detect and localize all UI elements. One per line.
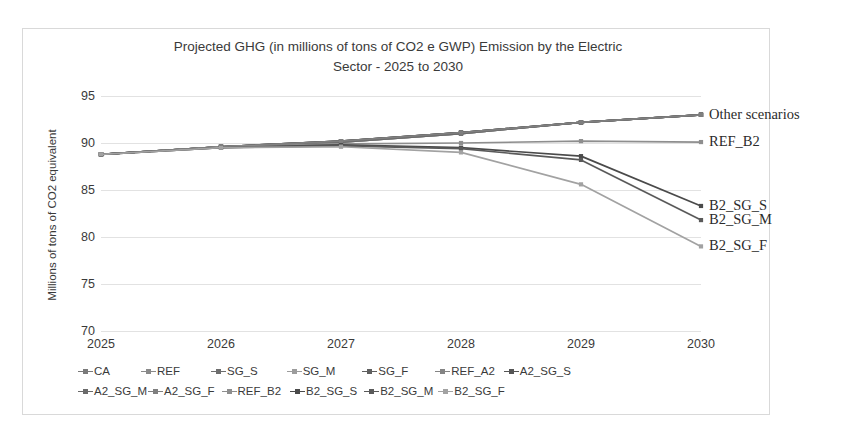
chart-title-line-1: Projected GHG (in millions of tons of CO…: [63, 37, 733, 57]
y-tick-label: 70: [57, 324, 95, 338]
x-tick-label: 2025: [87, 337, 115, 351]
legend-item-ref_a2[interactable]: REF_A2: [435, 365, 495, 377]
gridline: [101, 331, 701, 332]
legend-item-label: SG_F: [378, 365, 409, 377]
x-tick-label: 2029: [567, 337, 595, 351]
legend-marker-icon: [78, 386, 93, 396]
y-tick-label: 75: [57, 277, 95, 291]
legend-item-label: A2_SG_F: [164, 385, 216, 397]
series-marker: [699, 244, 703, 248]
series-line: [101, 147, 701, 247]
y-axis-tick-labels: 959085807570: [57, 29, 95, 414]
x-tick-label: 2028: [447, 337, 475, 351]
y-tick-label: 80: [57, 230, 95, 244]
legend-item-label: REF_B2: [238, 385, 282, 397]
legend-item-label: SG_S: [227, 365, 259, 377]
series-line: [101, 146, 701, 220]
chart-container: Projected GHG (in millions of tons of CO…: [22, 28, 770, 415]
y-tick-label: 85: [57, 183, 95, 197]
legend-item-b2_sg_m[interactable]: B2_SG_M: [364, 385, 434, 397]
legend-marker-icon: [438, 386, 453, 396]
legend-item-a2_sg_f[interactable]: A2_SG_F: [148, 385, 216, 397]
series-marker: [459, 150, 463, 154]
y-tick-label: 95: [57, 89, 95, 103]
legend-marker-icon: [287, 366, 302, 376]
legend-item-sg_m[interactable]: SG_M: [287, 365, 337, 377]
series-annotation: REF_B2: [709, 133, 760, 150]
series-marker: [459, 141, 463, 145]
series-marker: [459, 147, 463, 151]
series-annotation: B2_SG_F: [709, 237, 767, 254]
series-lines: [101, 96, 701, 331]
series-marker: [699, 218, 703, 222]
legend-item-b2_sg_f[interactable]: B2_SG_F: [438, 385, 506, 397]
chart-legend: CAREFSG_SSG_MSG_FREF_A2A2_SG_SA2_SG_MA2_…: [78, 361, 738, 401]
plot-area: [101, 96, 701, 331]
series-annotation: B2_SG_M: [709, 211, 772, 228]
legend-item-label: REF_A2: [451, 365, 495, 377]
legend-marker-icon: [78, 366, 93, 376]
x-tick-label: 2026: [207, 337, 235, 351]
legend-marker-icon: [211, 366, 226, 376]
chart-title: Projected GHG (in millions of tons of CO…: [63, 37, 733, 76]
legend-item-label: SG_M: [303, 365, 337, 377]
legend-item-ref_b2[interactable]: REF_B2: [222, 385, 282, 397]
legend-marker-icon: [290, 386, 305, 396]
series-marker: [579, 120, 583, 124]
series-marker: [699, 204, 703, 208]
legend-item-label: CA: [94, 365, 111, 377]
legend-item-label: A2_SG_S: [520, 365, 572, 377]
legend-item-sg_s[interactable]: SG_S: [211, 365, 259, 377]
series-marker: [579, 182, 583, 186]
series-marker: [579, 139, 583, 143]
legend-marker-icon: [141, 366, 156, 376]
x-tick-label: 2030: [687, 337, 715, 351]
series-marker: [99, 152, 103, 156]
x-axis-tick-labels: 202520262027202820292030: [101, 337, 701, 357]
legend-row: CAREFSG_SSG_MSG_FREF_A2A2_SG_S: [78, 361, 738, 381]
series-marker: [459, 131, 463, 135]
x-tick-label: 2027: [327, 337, 355, 351]
y-tick-label: 90: [57, 136, 95, 150]
legend-item-label: B2_SG_M: [380, 385, 434, 397]
legend-marker-icon: [222, 386, 237, 396]
series-marker: [339, 145, 343, 149]
legend-marker-icon: [504, 366, 519, 376]
legend-item-label: A2_SG_M: [94, 385, 148, 397]
series-marker: [579, 158, 583, 162]
legend-item-a2_sg_m[interactable]: A2_SG_M: [78, 385, 148, 397]
legend-item-ca[interactable]: CA: [78, 365, 111, 377]
legend-marker-icon: [435, 366, 450, 376]
legend-item-sg_f[interactable]: SG_F: [362, 365, 409, 377]
legend-item-b2_sg_s[interactable]: B2_SG_S: [290, 385, 358, 397]
series-marker: [699, 140, 703, 144]
series-marker: [699, 113, 703, 117]
legend-item-a2_sg_s[interactable]: A2_SG_S: [504, 365, 572, 377]
legend-item-label: B2_SG_F: [454, 385, 506, 397]
series-marker: [219, 146, 223, 150]
series-marker: [579, 154, 583, 158]
legend-item-label: REF: [157, 365, 181, 377]
chart-title-line-2: Sector - 2025 to 2030: [63, 57, 733, 77]
legend-row: A2_SG_MA2_SG_FREF_B2B2_SG_SB2_SG_MB2_SG_…: [78, 381, 738, 401]
legend-item-label: B2_SG_S: [306, 385, 358, 397]
series-annotation: Other scenarios: [709, 106, 800, 123]
legend-item-ref[interactable]: REF: [141, 365, 181, 377]
legend-marker-icon: [362, 366, 377, 376]
legend-marker-icon: [364, 386, 379, 396]
legend-marker-icon: [148, 386, 163, 396]
